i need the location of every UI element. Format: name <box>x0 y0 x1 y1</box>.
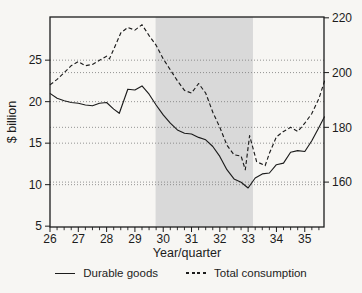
x-axis-title: Year/quarter <box>153 246 221 260</box>
plot-area: 2627282930313233343551015202516018020022… <box>0 0 362 293</box>
x-tick-label: 33 <box>241 232 255 246</box>
left-tick-label: 15 <box>29 136 43 150</box>
x-tick-label: 31 <box>185 232 199 246</box>
left-tick-label: 10 <box>29 178 43 192</box>
left-tick-label: 20 <box>29 95 43 109</box>
left-axis-title: $ billion <box>5 101 19 143</box>
x-tick-label: 34 <box>270 232 284 246</box>
x-tick-label: 30 <box>157 232 171 246</box>
right-tick-label: 200 <box>332 66 352 80</box>
recession-band <box>156 17 253 227</box>
x-tick-label: 32 <box>213 232 227 246</box>
x-tick-label: 26 <box>43 232 57 246</box>
legend-line-dashed-icon <box>186 272 206 273</box>
legend-label-durable-goods: Durable goods <box>83 267 158 279</box>
chart-figure: 2627282930313233343551015202516018020022… <box>0 0 362 293</box>
x-tick-label: 27 <box>72 232 86 246</box>
right-tick-label: 220 <box>332 11 352 25</box>
x-tick-label: 29 <box>128 232 142 246</box>
x-tick-label: 35 <box>298 232 312 246</box>
legend: Durable goods Total consumption <box>0 267 362 279</box>
legend-label-total-consumption: Total consumption <box>214 267 307 279</box>
left-tick-label: 25 <box>29 53 43 67</box>
left-tick-label: 5 <box>35 219 42 233</box>
x-tick-label: 28 <box>100 232 114 246</box>
right-tick-label: 180 <box>332 121 352 135</box>
right-tick-label: 160 <box>332 175 352 189</box>
legend-line-solid-icon <box>55 273 75 274</box>
